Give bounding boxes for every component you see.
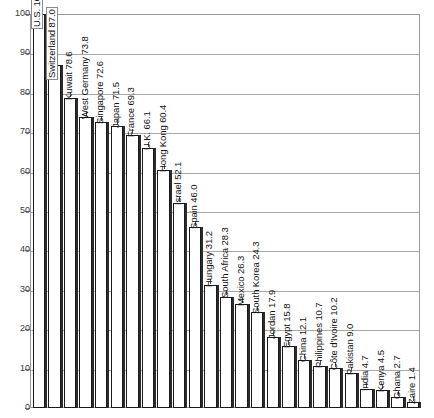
bar-slot: India 4.7: [360, 14, 372, 408]
bar-slot: South Africa 28.3: [220, 14, 232, 408]
bar-slot: Egypt 15.8: [282, 14, 294, 408]
bar-slot: Jordan 17.9: [267, 14, 279, 408]
bar[interactable]: [345, 373, 357, 408]
bar[interactable]: [189, 227, 201, 408]
bar-slot: Kenya 4.5: [376, 14, 388, 408]
bar[interactable]: [33, 14, 45, 408]
bar-label: Israel 52.1: [173, 161, 183, 204]
bar-label: India 4.7: [360, 356, 370, 392]
bar-slot: Hungary 31.2: [204, 14, 216, 408]
y-tick-label-90: 90: [8, 48, 30, 57]
bar[interactable]: [282, 346, 294, 408]
bar-slot: France 69.3: [126, 14, 138, 408]
bar[interactable]: [313, 366, 325, 408]
bar-label: Mexico 26.3: [236, 256, 246, 306]
bar-slot: China 12.1: [298, 14, 310, 408]
y-tick-label-100: 100: [8, 9, 30, 18]
y-tick-label-70: 70: [8, 127, 30, 136]
bar[interactable]: [329, 368, 341, 408]
y-tick-label-40: 40: [8, 245, 30, 254]
bar-label: Philippines 10.7: [314, 302, 324, 367]
bar-slot: West Germany 73.8: [79, 14, 91, 408]
bar-slot: U.K. 66.1: [142, 14, 154, 408]
bar-slot: Ghana 2.7: [391, 14, 403, 408]
bar-slot: Mexico 26.3: [235, 14, 247, 408]
y-axis: 0102030405060708090100: [0, 0, 30, 418]
bar-slot: Philippines 10.7: [313, 14, 325, 408]
bar[interactable]: [376, 390, 388, 408]
bar-label: Japan 71.5: [111, 82, 121, 128]
bar-slot: Hong Kong 60.4: [157, 14, 169, 408]
bar-slot: Spain 46.0: [189, 14, 201, 408]
bar[interactable]: [126, 135, 138, 408]
bar-label: Switzerland 87.0: [46, 8, 58, 81]
bar-slot: U.S. 100: [33, 14, 45, 408]
y-tick-label-80: 80: [8, 88, 30, 97]
bar-label: West Germany 73.8: [80, 37, 90, 120]
bar-chart: 0102030405060708090100 U.S. 100Switzerla…: [0, 0, 434, 418]
bar-label: Singapore 72.6: [95, 61, 105, 124]
y-tick-label-30: 30: [8, 285, 30, 294]
bar-label: France 69.3: [126, 87, 136, 137]
bar-label: Ghana 2.7: [392, 356, 402, 399]
bar-slot: Switzerland 87.0: [48, 14, 60, 408]
bars-layer: U.S. 100Switzerland 87.0Kuwait 78.6West …: [30, 14, 420, 408]
bar[interactable]: [267, 337, 279, 408]
y-tick-label-60: 60: [8, 167, 30, 176]
bar-label: South Africa 28.3: [220, 228, 230, 299]
bar-label: Spain 46.0: [189, 184, 199, 228]
bar-label: China 12.1: [298, 317, 308, 362]
bar[interactable]: [204, 285, 216, 408]
bar[interactable]: [251, 312, 263, 408]
bar-slot: Israel 52.1: [173, 14, 185, 408]
bar[interactable]: [235, 304, 247, 408]
y-tick-label-10: 10: [8, 364, 30, 373]
bar-slot: Singapore 72.6: [95, 14, 107, 408]
bar[interactable]: [142, 148, 154, 408]
bar-label: Côte d'Ivoire 10.2: [329, 297, 339, 369]
bar-label: Egypt 15.8: [282, 303, 292, 347]
bar-label: South Korea 24.3: [251, 242, 261, 314]
bar[interactable]: [48, 65, 60, 408]
bar-label: U.S. 100: [31, 0, 43, 29]
bar-label: U.K. 66.1: [142, 111, 152, 150]
bar[interactable]: [111, 126, 123, 408]
bar[interactable]: [220, 297, 232, 409]
bar-label: Hong Kong 60.4: [158, 105, 168, 172]
bar[interactable]: [95, 122, 107, 408]
bar-slot: Kuwait 78.6: [64, 14, 76, 408]
y-tick-label-20: 20: [8, 324, 30, 333]
bar-label: Zaire 1.4: [407, 368, 417, 405]
bar-slot: Pakistan 9.0: [345, 14, 357, 408]
bar-label: Kenya 4.5: [376, 350, 386, 392]
bar-slot: Japan 71.5: [111, 14, 123, 408]
bar[interactable]: [64, 98, 76, 408]
bar-label: Kuwait 78.6: [64, 52, 74, 101]
bar-label: Hungary 31.2: [204, 231, 214, 287]
bar-label: Jordan 17.9: [267, 290, 277, 339]
y-tick-label-0: 0: [8, 403, 30, 412]
bar[interactable]: [360, 389, 372, 408]
bar[interactable]: [79, 117, 91, 408]
bar-slot: South Korea 24.3: [251, 14, 263, 408]
bar-label: Pakistan 9.0: [345, 323, 355, 374]
bar[interactable]: [173, 203, 185, 408]
y-tick-label-50: 50: [8, 206, 30, 215]
bar-slot: Zaire 1.4: [407, 14, 419, 408]
bar[interactable]: [298, 360, 310, 408]
bar-slot: Côte d'Ivoire 10.2: [329, 14, 341, 408]
bar[interactable]: [157, 170, 169, 408]
